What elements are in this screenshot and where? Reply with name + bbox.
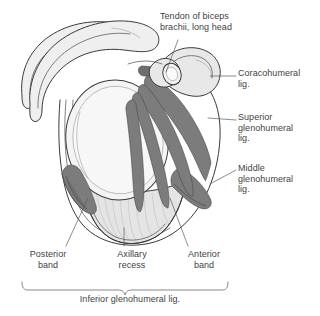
label-axillary-recess: Axillary recess [100,249,164,270]
label-middle-glenohumeral-ligament: Middle glenohumeral lig. [238,163,320,195]
label-posterior-band: Posterior band [16,249,80,270]
label-anterior-band: Anterior band [172,249,236,270]
label-inferior-glenohumeral-ligament: Inferior glenohumeral lig. [60,294,200,305]
label-coracohumeral-ligament: Coracohumeral lig. [238,68,320,89]
label-tendon-of-biceps-brachii: Tendon of biceps brachii, long head [160,11,270,32]
label-superior-glenohumeral-ligament: Superior glenohumeral lig. [238,112,320,144]
